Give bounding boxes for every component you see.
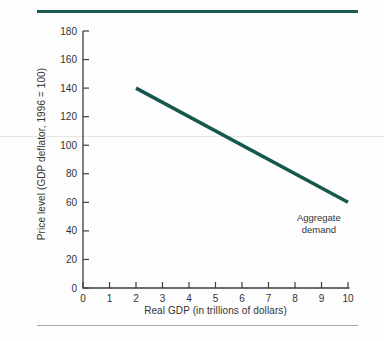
textbook-figure-page: Price level (GDP deflator, 1996 = 100) R… — [0, 0, 384, 341]
y-tick-label: 20 — [66, 254, 78, 265]
y-tick-label: 160 — [60, 54, 77, 65]
x-tick-label: 3 — [160, 293, 166, 304]
x-tick-label: 2 — [133, 293, 139, 304]
y-tick-label: 100 — [60, 140, 77, 151]
x-tick-label: 1 — [107, 293, 113, 304]
x-tick-label: 7 — [266, 293, 272, 304]
y-tick-label: 180 — [60, 26, 77, 37]
y-tick-label: 80 — [66, 168, 78, 179]
axes — [83, 31, 350, 288]
x-tick-label: 4 — [186, 293, 192, 304]
y-tick-label: 120 — [60, 111, 77, 122]
x-axis-title: Real GDP (in trillions of dollars) — [144, 305, 287, 316]
y-tick-label: 40 — [66, 225, 78, 236]
x-tick-label: 0 — [80, 293, 86, 304]
x-tick-label: 10 — [342, 293, 354, 304]
aggregate-demand-line — [136, 88, 348, 202]
aggregate-demand-chart: Price level (GDP deflator, 1996 = 100) R… — [0, 0, 384, 341]
y-tick-label: 60 — [66, 197, 78, 208]
y-tick-label: 140 — [60, 83, 77, 94]
x-tick-label: 9 — [319, 293, 325, 304]
y-tick-label: 0 — [71, 283, 77, 294]
bottom-rule — [37, 325, 358, 326]
x-tick-label: 5 — [213, 293, 219, 304]
aggregate-demand-label: Aggregatedemand — [297, 212, 341, 235]
x-tick-label: 8 — [292, 293, 298, 304]
y-axis-title: Price level (GDP deflator, 1996 = 100) — [36, 68, 47, 240]
x-tick-label: 6 — [239, 293, 245, 304]
